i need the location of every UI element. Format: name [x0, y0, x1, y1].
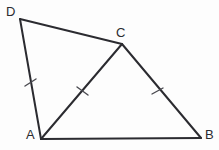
segment-AB — [41, 138, 201, 139]
vertex-label-d: D — [6, 5, 15, 18]
segment-AC — [41, 44, 122, 139]
vertex-label-c: C — [116, 26, 125, 39]
geometry-figure: A B C D — [0, 0, 219, 150]
vertex-label-a: A — [26, 128, 35, 141]
segment-CB — [122, 44, 201, 138]
segment-DC — [20, 19, 122, 44]
vertex-label-b: B — [205, 128, 214, 141]
segment-DA — [20, 19, 41, 139]
